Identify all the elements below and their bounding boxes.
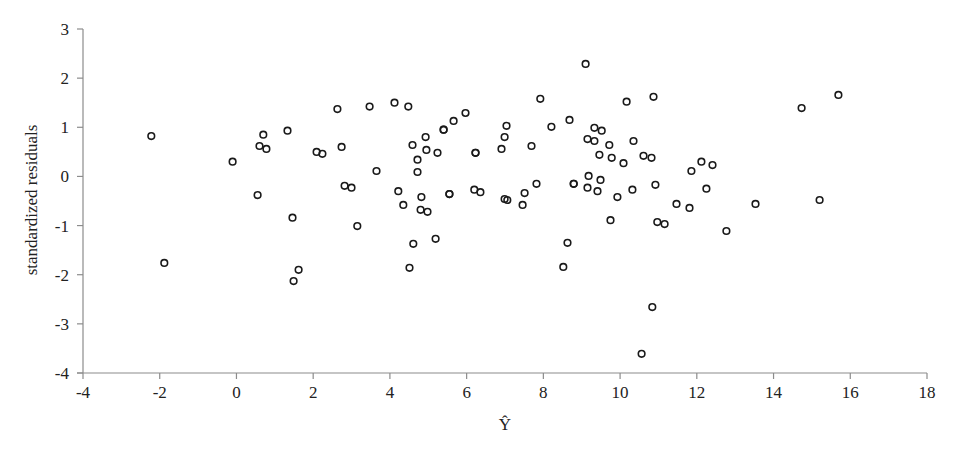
- data-point: [703, 185, 710, 192]
- data-point: [752, 201, 759, 208]
- x-tick-label: 2: [309, 383, 318, 402]
- data-point: [594, 188, 601, 195]
- data-point: [410, 241, 417, 248]
- data-point: [354, 223, 361, 230]
- data-point: [424, 209, 431, 216]
- data-point: [585, 173, 592, 180]
- y-tick-label: 2: [61, 69, 70, 88]
- data-point: [723, 228, 730, 235]
- data-point: [533, 181, 540, 188]
- data-point: [652, 182, 659, 189]
- data-point: [584, 136, 591, 143]
- data-point: [596, 152, 603, 159]
- data-point: [498, 146, 505, 153]
- data-point: [414, 156, 421, 163]
- data-point: [570, 181, 577, 188]
- data-point: [614, 194, 621, 201]
- data-point: [650, 94, 657, 101]
- data-point: [835, 92, 842, 99]
- x-axis: -4-2024681012141618: [76, 373, 936, 402]
- data-point: [395, 188, 402, 195]
- data-point: [338, 144, 345, 151]
- data-point: [341, 183, 348, 190]
- data-point: [373, 168, 380, 175]
- data-point: [591, 125, 598, 132]
- x-tick-label: 8: [539, 383, 548, 402]
- data-point: [629, 186, 636, 193]
- data-point: [582, 61, 589, 68]
- data-point: [607, 217, 614, 224]
- data-point: [148, 133, 155, 140]
- data-point: [501, 134, 508, 141]
- data-point: [405, 103, 412, 110]
- x-tick-label: 12: [688, 383, 705, 402]
- data-point: [417, 207, 424, 214]
- data-point: [418, 194, 425, 201]
- data-point: [450, 118, 457, 125]
- x-tick-label: -4: [76, 383, 91, 402]
- data-point: [584, 184, 591, 191]
- data-point: [434, 150, 441, 157]
- data-point: [598, 127, 605, 134]
- data-point: [432, 236, 439, 243]
- data-point: [698, 158, 705, 165]
- scatter-chart: -4-3-2-10123 -4-2024681012141618 Ŷ stand…: [0, 0, 956, 455]
- data-point: [290, 278, 297, 285]
- y-axis: -4-3-2-10123: [55, 20, 83, 383]
- data-point: [254, 192, 261, 199]
- y-tick-label: 1: [61, 118, 70, 137]
- data-point: [284, 127, 291, 134]
- data-point: [477, 189, 484, 196]
- data-point: [654, 219, 661, 226]
- data-point: [348, 184, 355, 191]
- x-tick-label: 16: [842, 383, 859, 402]
- data-point: [709, 162, 716, 169]
- data-point: [422, 134, 429, 141]
- x-tick-label: 6: [462, 383, 471, 402]
- data-point: [519, 202, 526, 209]
- y-axis-title: standardized residuals: [22, 125, 41, 276]
- data-point: [528, 143, 535, 150]
- data-point: [503, 123, 510, 130]
- data-point: [688, 168, 695, 175]
- data-point: [263, 146, 270, 153]
- data-point: [462, 110, 469, 117]
- data-point: [260, 131, 267, 138]
- y-tick-label: -3: [55, 315, 69, 334]
- data-point: [640, 153, 647, 160]
- data-point: [564, 240, 571, 247]
- data-point: [606, 142, 613, 149]
- data-point: [446, 191, 453, 198]
- data-point: [673, 201, 680, 208]
- data-point: [391, 99, 398, 106]
- data-point: [566, 117, 573, 124]
- x-tick-label: 4: [386, 383, 395, 402]
- x-axis-title: Ŷ: [499, 415, 511, 434]
- data-point: [597, 177, 604, 184]
- data-point: [161, 260, 168, 267]
- data-point: [295, 267, 302, 274]
- y-tick-label: 3: [61, 20, 70, 39]
- data-point: [406, 265, 413, 272]
- data-point: [686, 205, 693, 212]
- x-tick-label: 18: [919, 383, 936, 402]
- data-point: [649, 304, 656, 311]
- data-point: [423, 147, 430, 154]
- x-tick-label: 14: [765, 383, 783, 402]
- data-point: [229, 158, 236, 165]
- y-tick-label: -4: [55, 364, 70, 383]
- data-point: [414, 169, 421, 176]
- data-point: [537, 96, 544, 103]
- data-point: [289, 214, 296, 221]
- data-point: [620, 160, 627, 167]
- data-point: [648, 155, 655, 162]
- data-point: [661, 221, 668, 228]
- x-tick-label: 10: [612, 383, 629, 402]
- data-point: [472, 150, 479, 157]
- data-point: [630, 138, 637, 145]
- data-point: [440, 126, 447, 133]
- data-point: [256, 143, 263, 150]
- data-points: [148, 61, 842, 358]
- data-point: [409, 142, 416, 149]
- data-point: [798, 105, 805, 112]
